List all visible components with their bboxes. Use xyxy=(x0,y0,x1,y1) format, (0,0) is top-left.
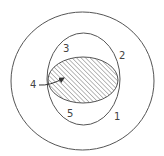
region-diagram: 1 2 3 4 5 xyxy=(0,0,164,156)
label-5: 5 xyxy=(67,108,73,119)
label-3: 3 xyxy=(63,43,69,54)
hatched-ellipse xyxy=(48,57,118,103)
label-2: 2 xyxy=(119,50,125,61)
label-4: 4 xyxy=(30,79,36,90)
label-1: 1 xyxy=(114,111,120,122)
